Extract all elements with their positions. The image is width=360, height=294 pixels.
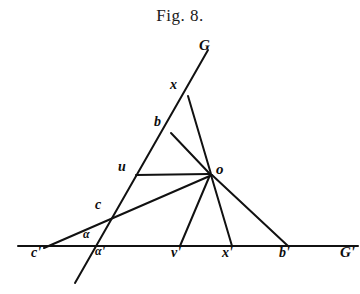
segment-o-to-vprime xyxy=(180,175,210,246)
figure-container: Fig. 8. Gxbuocαc'α'v'x'b'G' xyxy=(0,0,360,294)
segment-u-to-o xyxy=(136,174,209,175)
point-label-Gprime: G' xyxy=(340,245,355,260)
point-label-bprime: b' xyxy=(279,246,290,260)
point-label-aprime: α' xyxy=(95,245,105,257)
segment-o-to-xprime xyxy=(211,175,232,246)
point-label-vprime: v' xyxy=(171,246,181,260)
point-label-G: G xyxy=(199,38,210,53)
point-label-u: u xyxy=(118,160,126,174)
point-label-o: o xyxy=(216,162,224,177)
point-label-c: c xyxy=(95,198,101,212)
line-layer xyxy=(18,50,358,283)
point-label-alpha: α xyxy=(83,228,90,240)
point-label-cprime: c' xyxy=(31,246,41,260)
ray-cprime-to-o xyxy=(44,175,212,248)
point-label-b: b xyxy=(154,115,161,129)
point-label-x: x xyxy=(170,78,177,92)
segment-o-to-bprime xyxy=(212,175,288,246)
point-label-xprime: x' xyxy=(222,246,233,260)
